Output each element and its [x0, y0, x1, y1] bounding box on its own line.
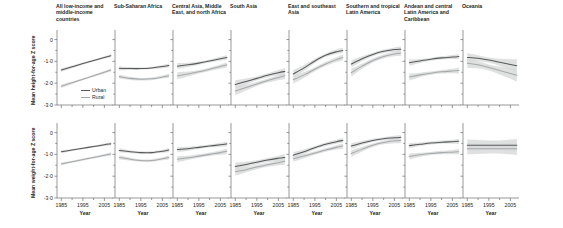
- panel-height-8: [457, 29, 523, 113]
- x-axis-label: Year: [70, 210, 100, 216]
- y-tick-label: -2·0: [33, 80, 53, 86]
- x-tick-label: 1995: [305, 202, 325, 208]
- x-tick-label: 1995: [189, 202, 209, 208]
- x-axis-label: Year: [476, 210, 506, 216]
- x-tick-label: 1985: [109, 202, 129, 208]
- x-axis-label: Year: [302, 210, 332, 216]
- y-tick-label: -1·0: [33, 58, 53, 64]
- x-tick-label: 1995: [131, 202, 151, 208]
- x-axis-label: Year: [244, 210, 274, 216]
- panel-weight-4: [225, 122, 291, 206]
- x-axis-label: Year: [418, 210, 448, 216]
- legend-label: Urban: [92, 87, 106, 93]
- column-title-4: South Asia: [230, 3, 284, 9]
- y-axis-label-weight: Mean weight-for-age Z score: [30, 128, 36, 198]
- panel-weight-6: [341, 122, 407, 206]
- column-title-5: East and southeast Asia: [288, 3, 342, 16]
- panel-weight-5: [283, 122, 349, 206]
- x-tick-label: 1995: [363, 202, 383, 208]
- x-tick-label: 1985: [51, 202, 71, 208]
- panel-weight-1: [51, 122, 117, 206]
- panel-height-4: [225, 29, 291, 113]
- column-title-7: Andean and central Latin America and Car…: [404, 3, 458, 22]
- panel-height-6: [341, 29, 407, 113]
- x-tick-label: 1985: [399, 202, 419, 208]
- x-axis-label: Year: [360, 210, 390, 216]
- x-tick-label: 1995: [73, 202, 93, 208]
- panel-height-2: [109, 29, 175, 113]
- y-tick-label: -3·0: [33, 102, 53, 108]
- panel-weight-8: [457, 122, 523, 206]
- x-tick-label: 1985: [341, 202, 361, 208]
- y-tick-label: -3·0: [33, 195, 53, 201]
- x-tick-label: 1995: [479, 202, 499, 208]
- panel-weight-3: [167, 122, 233, 206]
- x-tick-label: 1985: [457, 202, 477, 208]
- y-tick-label: 0: [33, 130, 53, 136]
- x-tick-label: 1995: [247, 202, 267, 208]
- legend-swatch-icon: [81, 90, 90, 91]
- y-tick-label: -2·0: [33, 173, 53, 179]
- x-tick-label: 2005: [500, 202, 520, 208]
- panel-height-7: [399, 29, 465, 113]
- panel-height-1: [51, 29, 117, 113]
- x-axis-label: Year: [128, 210, 158, 216]
- column-title-3: Central Asia, Middle East, and north Afr…: [172, 3, 226, 16]
- x-tick-label: 1985: [167, 202, 187, 208]
- x-tick-label: 1995: [421, 202, 441, 208]
- column-title-2: Sub-Saharan Africa: [114, 3, 168, 9]
- x-tick-label: 1985: [283, 202, 303, 208]
- panel-height-3: [167, 29, 233, 113]
- legend-label: Rural: [92, 94, 104, 100]
- figure-panel-grid: All low-income and middle-income countri…: [0, 0, 563, 228]
- column-title-6: Southern and tropical Latin America: [346, 3, 400, 16]
- y-axis-label-height: Mean height-for-age Z score: [30, 36, 36, 105]
- legend-swatch-icon: [81, 97, 90, 98]
- y-tick-label: 0: [33, 37, 53, 43]
- panel-height-5: [283, 29, 349, 113]
- y-tick-label: -1·0: [33, 151, 53, 157]
- column-title-1: All low-income and middle-income countri…: [56, 3, 110, 22]
- panel-weight-7: [399, 122, 465, 206]
- panel-weight-2: [109, 122, 175, 206]
- column-title-8: Oceania: [462, 3, 516, 9]
- x-axis-label: Year: [186, 210, 216, 216]
- x-tick-label: 1985: [225, 202, 245, 208]
